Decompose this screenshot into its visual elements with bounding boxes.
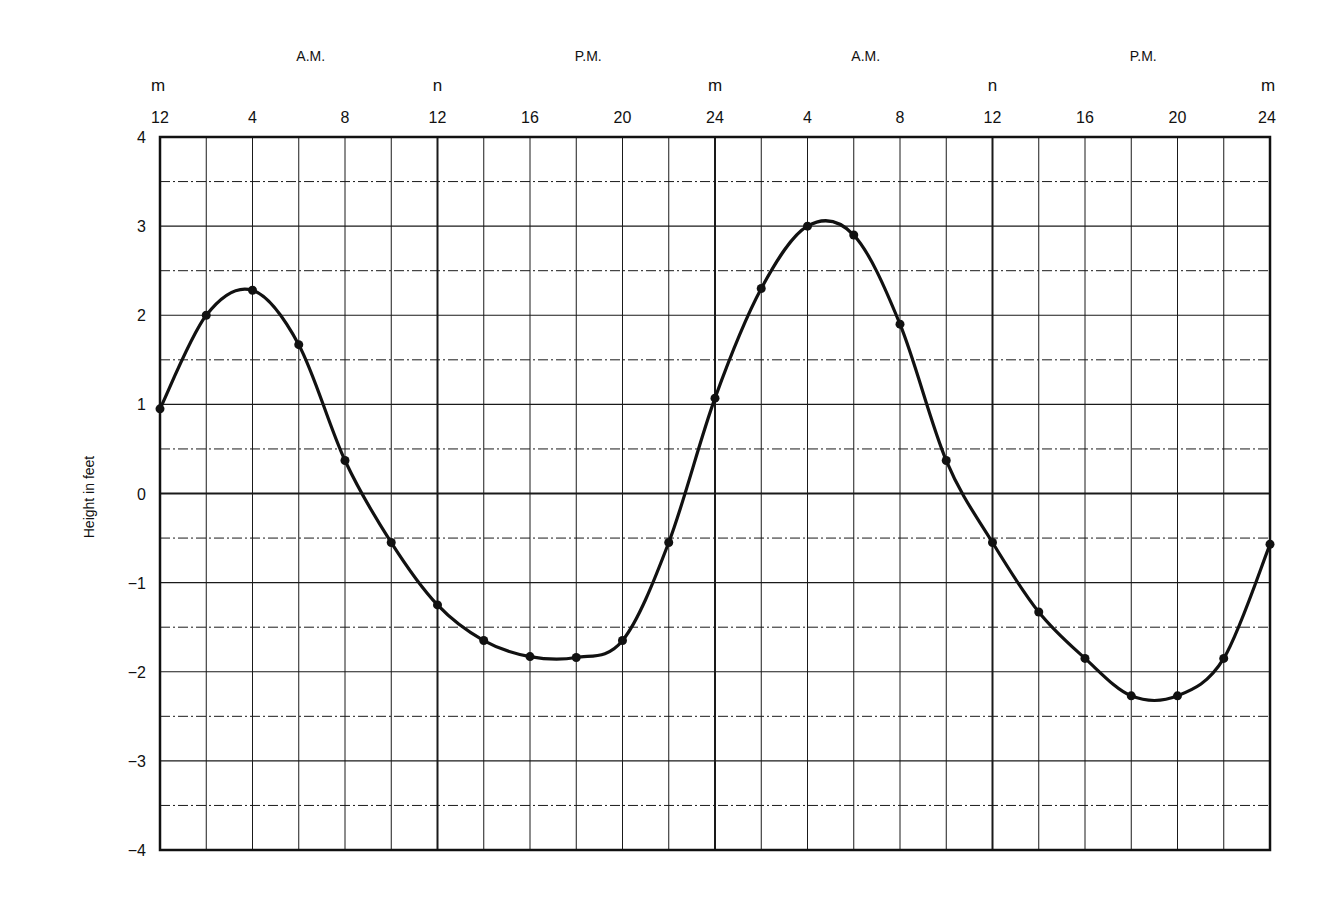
data-point: [896, 320, 905, 329]
data-point: [664, 538, 673, 547]
x-tick-label: 20: [614, 109, 632, 126]
data-point: [479, 636, 488, 645]
noon-marker: n: [433, 76, 442, 95]
data-point: [711, 394, 720, 403]
data-point: [1081, 654, 1090, 663]
noon-marker: n: [988, 76, 997, 95]
midnight-marker: m: [151, 76, 165, 95]
data-point: [433, 600, 442, 609]
midnight-marker: m: [1261, 76, 1275, 95]
y-tick-label: 1: [137, 396, 146, 413]
data-point: [156, 404, 165, 413]
pm-label: P.M.: [1130, 48, 1157, 64]
data-point: [757, 284, 766, 293]
x-tick-label: 4: [248, 109, 257, 126]
data-point: [942, 456, 951, 465]
data-point: [526, 652, 535, 661]
y-tick-label: 3: [137, 218, 146, 235]
pm-label: P.M.: [575, 48, 602, 64]
data-point: [572, 653, 581, 662]
data-point: [294, 340, 303, 349]
grid: [160, 137, 1270, 850]
data-point: [1266, 540, 1275, 549]
y-tick-label: −1: [128, 575, 146, 592]
y-axis-label: Height in feet: [81, 456, 97, 539]
x-tick-label: 4: [803, 109, 812, 126]
y-tick-label: 2: [137, 307, 146, 324]
x-axis: 1248121620244812162024mnmnmA.M.P.M.A.M.P…: [151, 48, 1276, 126]
data-point: [248, 286, 257, 295]
data-point: [1173, 691, 1182, 700]
data-point: [341, 456, 350, 465]
data-point: [849, 231, 858, 240]
y-tick-label: −4: [128, 842, 146, 859]
data-point: [803, 222, 812, 231]
x-tick-label: 16: [1076, 109, 1094, 126]
x-tick-label: 12: [984, 109, 1002, 126]
y-tick-label: 4: [137, 129, 146, 146]
am-label: A.M.: [851, 48, 880, 64]
x-tick-label: 24: [1258, 109, 1276, 126]
y-tick-label: −3: [128, 753, 146, 770]
data-point: [387, 538, 396, 547]
x-tick-label: 16: [521, 109, 539, 126]
data-point: [618, 636, 627, 645]
y-axis: 43210−1−2−3−4: [128, 129, 146, 859]
data-point: [988, 538, 997, 547]
data-point: [202, 311, 211, 320]
am-label: A.M.: [296, 48, 325, 64]
y-tick-label: 0: [137, 486, 146, 503]
x-tick-label: 12: [429, 109, 447, 126]
midnight-marker: m: [708, 76, 722, 95]
data-point: [1127, 691, 1136, 700]
data-point: [1034, 608, 1043, 617]
data-point: [1219, 654, 1228, 663]
x-tick-label: 12: [151, 109, 169, 126]
x-tick-label: 8: [896, 109, 905, 126]
tide-chart: 43210−1−2−3−4 1248121620244812162024mnmn…: [0, 0, 1343, 906]
x-tick-label: 24: [706, 109, 724, 126]
x-tick-label: 8: [341, 109, 350, 126]
x-tick-label: 20: [1169, 109, 1187, 126]
y-tick-label: −2: [128, 664, 146, 681]
